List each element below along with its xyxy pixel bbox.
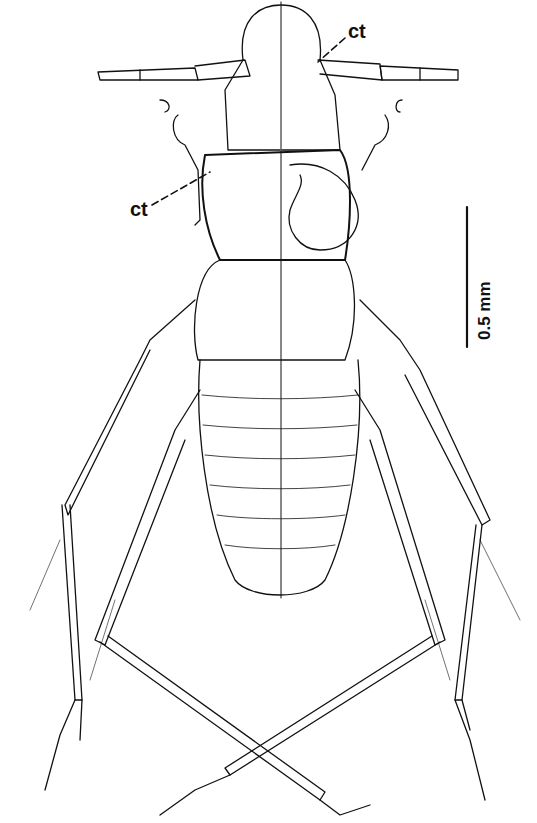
left-palp (160, 100, 200, 225)
ct-label-top: ct (348, 20, 366, 43)
left-hind-tarsus (320, 800, 370, 815)
ct-pointer-left (152, 172, 210, 205)
left-fore-tarsus (45, 700, 82, 790)
right-midleg (355, 390, 445, 645)
pronotum (202, 150, 350, 260)
left-antenna (98, 60, 250, 80)
left-fore-tibia (62, 505, 82, 700)
left-hind-tibia (100, 636, 325, 800)
mesothorax (194, 260, 354, 360)
insect-illustration (0, 0, 537, 823)
left-foreleg (65, 300, 195, 515)
right-palp (362, 100, 402, 170)
right-fore-tarsus (455, 700, 485, 800)
abdominal-segments (202, 395, 358, 549)
scale-bar-label: 0.5 mm (475, 281, 495, 340)
face (225, 60, 340, 150)
ct-pointer-top (318, 38, 345, 62)
right-antenna (318, 60, 458, 80)
right-hind-tarsus (160, 775, 230, 815)
setae (30, 540, 520, 680)
right-fore-tibia (455, 525, 482, 700)
abdomen (199, 360, 360, 595)
right-foreleg (360, 300, 490, 525)
ct-label-left: ct (130, 198, 148, 221)
